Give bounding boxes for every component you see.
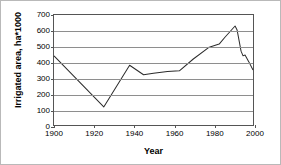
gridline: [54, 79, 253, 80]
y-tick-label: 300: [37, 75, 50, 83]
x-tick-label: 1940: [125, 130, 143, 138]
y-tick-label: 100: [37, 107, 50, 115]
x-tick-mark: [255, 125, 256, 128]
chart-figure: Irrigated area, ha*1000 0100200300400500…: [0, 0, 281, 165]
gridline: [54, 111, 253, 112]
y-tick-label: 400: [37, 59, 50, 67]
y-tick-mark: [51, 79, 54, 80]
y-tick-mark: [51, 47, 54, 48]
x-tick-label: 1920: [85, 130, 103, 138]
x-tick-mark: [134, 125, 135, 128]
x-axis-title: Year: [53, 146, 254, 156]
x-tick-label: 1980: [206, 130, 224, 138]
x-tick-mark: [175, 125, 176, 128]
x-tick-mark: [94, 125, 95, 128]
y-tick-mark: [51, 31, 54, 32]
x-tick-label: 1900: [45, 130, 63, 138]
y-tick-label: 700: [37, 11, 50, 19]
y-tick-mark: [51, 95, 54, 96]
x-tick-label: 1960: [166, 130, 184, 138]
plot-area: 0100200300400500600700190019201940196019…: [53, 14, 254, 126]
y-tick-label: 500: [37, 43, 50, 51]
x-tick-mark: [54, 125, 55, 128]
gridline: [54, 47, 253, 48]
y-tick-label: 200: [37, 91, 50, 99]
y-tick-mark: [51, 111, 54, 112]
gridline: [54, 95, 253, 96]
y-axis-title: Irrigated area, ha*1000: [13, 0, 23, 121]
y-tick-label: 600: [37, 27, 50, 35]
y-tick-mark: [51, 15, 54, 16]
gridline: [54, 63, 253, 64]
y-tick-mark: [51, 63, 54, 64]
gridline: [54, 31, 253, 32]
x-tick-mark: [215, 125, 216, 128]
x-tick-label: 2000: [246, 130, 264, 138]
